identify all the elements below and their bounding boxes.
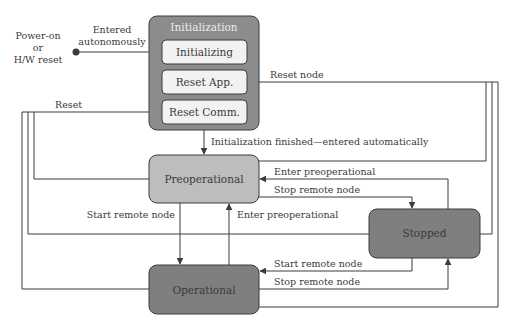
reset-app-label: Reset App. (176, 76, 234, 88)
reset-label: Reset (55, 99, 82, 110)
preoperational-label: Preoperational (164, 173, 244, 185)
substate-reset-comm[interactable]: Reset Comm. (162, 100, 247, 124)
preop-stop-remote-label: Stop remote node (274, 184, 360, 195)
power-on-label-line1: Power-on (15, 30, 60, 41)
transition-preop-stop-remote (259, 197, 412, 208)
state-operational[interactable]: Operational (149, 265, 259, 314)
reset-node-label: Reset node (270, 69, 324, 80)
substate-reset-app[interactable]: Reset App. (162, 70, 247, 94)
stopped-enter-preop-label: Enter preoperational (274, 166, 375, 177)
power-on-label-line3: H/W reset (14, 54, 63, 65)
power-on-start: Power-on or H/W reset Entered autonomous… (14, 24, 161, 65)
stopped-start-remote-label: Start remote node (274, 258, 363, 269)
entered-autonomously-label-line1: Entered (93, 24, 132, 35)
substate-initializing[interactable]: Initializing (162, 40, 247, 64)
operational-label: Operational (172, 284, 236, 296)
op-stop-remote-label: Stop remote node (274, 276, 360, 287)
state-initialization[interactable]: Initialization Initializing Reset App. R… (149, 16, 259, 130)
preop-start-remote-label: Start remote node (87, 209, 176, 220)
nmt-state-diagram: Power-on or H/W reset Entered autonomous… (0, 0, 513, 329)
power-on-label-line2: or (33, 42, 44, 53)
state-preoperational[interactable]: Preoperational (149, 155, 259, 203)
transition-lines (22, 82, 498, 307)
init-finished-label: Initialization finished—entered automati… (211, 136, 429, 147)
initializing-label: Initializing (176, 46, 233, 58)
stopped-label: Stopped (402, 227, 446, 239)
entered-autonomously-label-line2: autonomously (78, 36, 146, 47)
initialization-title: Initialization (170, 21, 238, 33)
reset-comm-label: Reset Comm. (169, 106, 240, 118)
state-stopped[interactable]: Stopped (369, 209, 480, 258)
op-enter-preop-label: Enter preoperational (237, 209, 338, 220)
